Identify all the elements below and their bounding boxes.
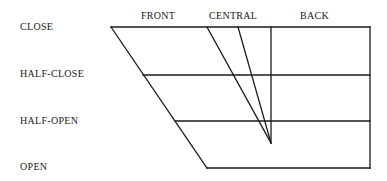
left-diagonal (111, 27, 207, 168)
central-diagonal-2 (238, 27, 271, 143)
central-diagonal-1 (207, 27, 271, 143)
vowel-trapezoid-diagram (0, 0, 387, 181)
